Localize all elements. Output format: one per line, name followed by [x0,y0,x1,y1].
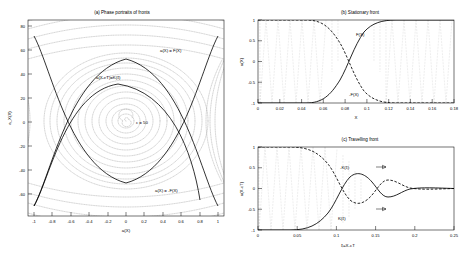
panel-c-oscillations [259,147,361,230]
panel-a-xtick-1: -0.8 [48,219,56,224]
panel-a-ylabel: a_X(X) [7,111,12,125]
panel-c-xtick-4: 0.2 [412,233,418,238]
panel-a-ytick-3: 20 [20,96,25,101]
figure-container: (a) Phase portraits of fronts [0,0,472,258]
panel-a-xtick-4: -0.2 [104,219,112,224]
panel-b-xtick-3: 0.06 [319,106,328,111]
panel-c-xaxis: 0 0.05 0.1 0.15 0.2 0.25 [257,226,459,238]
panel-a-plot-area: 80 60 40 20 0 -20 -40 -60 [2,7,234,235]
panel-c-ytick-2: 0 [253,186,256,191]
panel-b-xaxis: 0 0.02 0.04 0.06 0.08 0.1 0.12 0.14 0.16… [257,99,459,111]
panel-c-xtick-2: 0.1 [334,233,340,238]
panel-a-xtick-9: 0.8 [197,219,203,224]
panel-b-ytick-3: -0.5 [248,80,256,85]
panel-a-ytick-2: 40 [20,72,25,77]
panel-a-ytick-1: 60 [20,48,25,53]
panel-b-xtick-6: 0.12 [385,106,394,111]
panel-c-ytick-3: -0.5 [248,207,256,212]
panel-c-ytick-0: 1 [253,145,256,150]
panel-a-xtick-5: 0 [125,219,128,224]
panel-c-xlabel: ξ=X-cT [341,243,355,248]
panel-a-ytick-6: -40 [19,168,26,173]
panel-a-xlabel: a(X) [122,228,131,233]
panel-a-xtick-6: 0.2 [141,219,147,224]
panel-a-xtick-0: -1 [32,219,36,224]
panel-a-ytick-0: 80 [20,24,25,29]
panel-a-xtick-3: -0.4 [85,219,93,224]
panel-b-xtick-8: 0.16 [428,106,437,111]
curve-K-xi [258,174,454,230]
curve-minus-K-xi [258,147,454,203]
panel-a-title: (a) Phase portraits of fronts [94,10,150,15]
panel-c-xtick-3: 0.15 [372,233,381,238]
annotation-minus-F-of-X: -F(X) [349,92,359,97]
panel-b-xtick-0: 0 [257,106,260,111]
panel-b-xlabel: X [355,115,358,120]
panel-b-xtick-4: 0.08 [341,106,350,111]
panel-a-xaxis: -1 -0.8 -0.6 -0.4 -0.2 0 0.2 0.4 0.6 0.8… [32,212,220,224]
panel-b-xtick-5: 0.1 [364,106,370,111]
panel-c-xtick-0: 0 [257,233,260,238]
panel-c-ytick-4: -1 [251,228,255,233]
panel-c-ytick-1: 0.5 [249,165,255,170]
annotation-speed: c = 50 [136,120,148,125]
panel-a-frame [28,20,224,216]
panel-a-yaxis: 80 60 40 20 0 -20 -40 -60 [19,24,32,197]
annotation-upper-separatrix: a(X) = F(X) [160,48,182,53]
panel-a-xtick-7: 0.4 [160,219,166,224]
panel-b-ytick-4: -1 [251,101,255,106]
panel-c-ylabel: a(X-cT) [239,181,244,196]
panel-a-xtick-8: 0.6 [178,219,184,224]
annotation-lower-separatrix: a(X) = -F(X) [155,188,178,193]
panel-b-xtick-9: 0.18 [450,106,459,111]
panel-travelling-front: (c) Travelling front [236,127,472,258]
panel-b-ytick-0: 1 [253,18,256,23]
panel-a-ytick-5: -20 [19,144,26,149]
panel-b-xtick-7: 0.14 [406,106,415,111]
panel-b-ytick-1: 0.5 [249,38,255,43]
annotation-inner-orbit: a(X-cT)=K(ξ) [96,75,121,80]
panel-b-title: (b) Stationary front [341,10,380,15]
panel-phase-portraits: (a) Phase portraits of fronts [0,0,236,258]
panel-b-xtick-1: 0.02 [276,106,285,111]
annotation-F-of-X: F(X) [356,32,365,37]
panel-b-xtick-2: 0.04 [298,106,307,111]
panel-c-xtick-5: 0.25 [450,233,459,238]
panel-stationary-front: (b) Stationary front [236,0,472,127]
panel-c-xtick-1: 0.05 [293,233,302,238]
annotation-minus-K-xi: -K(ξ) [340,165,350,170]
panel-b-ylabel: a(X) [239,57,244,66]
panel-a-ytick-7: -60 [19,192,26,197]
panel-a-xtick-10: 1 [217,219,220,224]
panel-b-ytick-2: 0 [253,59,256,64]
panel-a-ytick-4: 0 [23,120,26,125]
panel-c-frame [258,147,454,230]
panel-c-title: (c) Travelling front [342,137,379,142]
panel-a-xtick-2: -0.6 [67,219,75,224]
lower-separatrix [34,36,218,183]
annotation-K-xi: K(ξ) [338,216,346,221]
